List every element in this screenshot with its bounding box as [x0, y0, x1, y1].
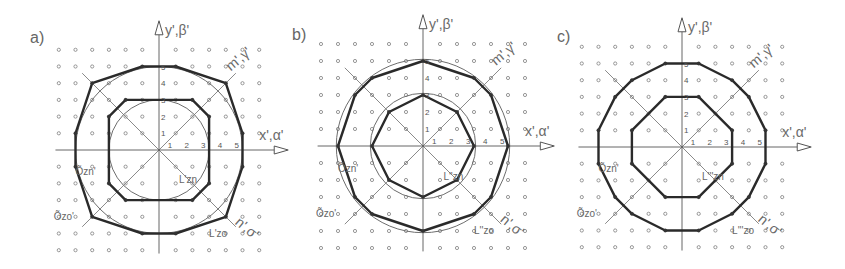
- vertex-point: [370, 144, 374, 148]
- grid-dot: [124, 165, 127, 168]
- vertex-point: [90, 81, 94, 85]
- vertex-point: [664, 195, 668, 199]
- grid-dot: [580, 162, 583, 165]
- grid-dot: [781, 79, 784, 82]
- x-axis-label: x',α': [525, 123, 549, 139]
- grid-dot: [174, 249, 177, 252]
- grid-dot: [764, 246, 767, 249]
- vertex-point: [224, 81, 228, 85]
- grid-dot: [438, 76, 441, 79]
- grid-dot: [74, 182, 77, 185]
- grid-dot: [241, 249, 244, 252]
- grid-dot: [697, 45, 700, 48]
- grid-dot: [614, 45, 617, 48]
- grid-dot: [747, 45, 750, 48]
- grid-dot: [57, 199, 60, 202]
- grid-dot: [107, 65, 110, 68]
- grid-dot: [697, 179, 700, 182]
- vertex-point: [124, 198, 128, 202]
- grid-dot: [664, 179, 667, 182]
- grid-dot: [647, 45, 650, 48]
- vertex-point: [506, 144, 510, 148]
- grid-dot: [241, 182, 244, 185]
- grid-dot: [319, 93, 322, 96]
- grid-dot: [353, 42, 356, 45]
- grid-dot: [91, 232, 94, 235]
- grid-dot: [404, 246, 407, 249]
- grid-dot: [57, 132, 60, 135]
- grid-dot: [353, 59, 356, 62]
- grid-dot: [614, 129, 617, 132]
- grid-dot: [57, 165, 60, 168]
- vertex-point: [370, 76, 374, 80]
- grid-dot: [224, 249, 227, 252]
- x-axis-arrow-icon: [797, 143, 811, 151]
- y-tick-label: 3: [425, 91, 430, 100]
- grid-dot: [455, 59, 458, 62]
- x-axis-arrow-icon: [540, 142, 554, 150]
- grid-dot: [714, 229, 717, 232]
- grid-dot: [57, 82, 60, 85]
- grid-dot: [191, 48, 194, 51]
- vertex-point: [336, 144, 340, 148]
- grid-dot: [208, 249, 211, 252]
- grid-dot: [614, 246, 617, 249]
- grid-dot: [319, 161, 322, 164]
- y-tick-label: 2: [684, 110, 689, 119]
- vertex-point: [630, 212, 634, 216]
- vertex-point: [421, 195, 425, 199]
- vertex-point: [241, 132, 245, 136]
- annotation-inner-polygon: L'''zn: [702, 171, 724, 182]
- grid-dot: [455, 195, 458, 198]
- grid-dot: [387, 42, 390, 45]
- panel-c: c) 1122334455y',β'x',α'm',γ'n',σ'Õzn'Õzo…: [557, 18, 811, 251]
- grid-dot: [404, 178, 407, 181]
- grid-dot: [580, 62, 583, 65]
- y-axis-label: y',β': [429, 16, 453, 32]
- grid-dot: [523, 76, 526, 79]
- y-tick-label: 5: [425, 57, 430, 66]
- grid-dot: [241, 82, 244, 85]
- grid-dot: [630, 179, 633, 182]
- grid-dot: [57, 249, 60, 252]
- grid-dot: [731, 112, 734, 115]
- grid-dot: [472, 59, 475, 62]
- x-axis-arrow-icon: [274, 146, 288, 154]
- vertex-point: [74, 132, 78, 136]
- grid-dot: [191, 82, 194, 85]
- annotation-inner-circle: Õzn': [599, 162, 619, 174]
- x-axis-label: x',α': [259, 127, 283, 143]
- vertex-point: [472, 76, 476, 80]
- vertex-point: [697, 62, 701, 66]
- diag-n-label: n',σ': [498, 211, 528, 240]
- vertex-point: [387, 110, 391, 114]
- grid-dot: [580, 79, 583, 82]
- grid-dot: [747, 112, 750, 115]
- grid-dot: [597, 112, 600, 115]
- vertex-point: [597, 129, 601, 133]
- x-tick-label: 3: [724, 138, 729, 147]
- vertex-point: [191, 98, 195, 102]
- grid-dot: [781, 45, 784, 48]
- grid-dot: [489, 161, 492, 164]
- grid-dot: [258, 115, 261, 118]
- grid-dot: [107, 249, 110, 252]
- grid-dot: [404, 76, 407, 79]
- grid-dot: [107, 48, 110, 51]
- annotation-inner-polygon: L'zn: [179, 174, 197, 185]
- grid-dot: [523, 59, 526, 62]
- grid-dot: [764, 95, 767, 98]
- grid-dot: [174, 48, 177, 51]
- vertex-point: [630, 129, 634, 133]
- grid-dot: [336, 229, 339, 232]
- grid-dot: [370, 246, 373, 249]
- grid-dot: [74, 82, 77, 85]
- grid-dot: [258, 165, 261, 168]
- grid-dot: [523, 195, 526, 198]
- x-tick-label: 1: [168, 141, 173, 150]
- grid-dot: [664, 79, 667, 82]
- grid-dot: [319, 127, 322, 130]
- grid-dot: [731, 179, 734, 182]
- vertex-point: [107, 182, 111, 186]
- vertex-point: [207, 182, 211, 186]
